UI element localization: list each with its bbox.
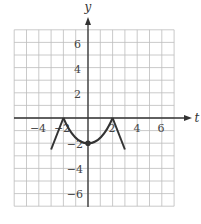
y-axis xyxy=(85,17,91,207)
y-tick-label: −2 xyxy=(67,138,83,151)
marked-point xyxy=(85,140,91,146)
x-axis-arrow-icon xyxy=(184,115,192,121)
y-axis-label: y xyxy=(84,0,92,14)
graph: t y −4 −2 2 4 6 6 4 2 −2 −4 −6 xyxy=(0,0,201,224)
x-axis-label: t xyxy=(195,111,200,125)
y-tick-label: 2 xyxy=(74,88,81,101)
x-tick-label: −4 xyxy=(30,122,46,135)
x-tick-label: 4 xyxy=(134,122,141,135)
x-tick-label: 6 xyxy=(158,122,165,135)
y-tick-label: 6 xyxy=(74,38,81,51)
y-tick-label: −4 xyxy=(67,163,83,176)
y-tick-label: −6 xyxy=(67,188,83,201)
y-tick-label: 4 xyxy=(74,63,81,76)
y-axis-arrow-icon xyxy=(85,17,91,25)
x-axis xyxy=(14,115,192,121)
